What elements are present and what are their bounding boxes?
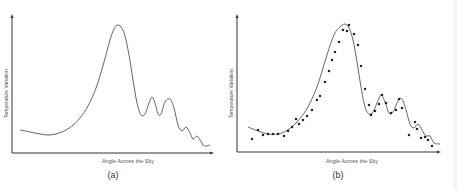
- data-point: [385, 102, 387, 104]
- x-axis-arrow-icon: [437, 151, 441, 154]
- data-point: [267, 133, 269, 135]
- x-axis-arrow-icon: [210, 152, 214, 155]
- model-curve: [20, 25, 210, 146]
- data-point: [324, 81, 326, 83]
- y-axis-arrow-icon: [236, 14, 239, 18]
- data-point: [360, 65, 362, 67]
- panel-caption: (a): [98, 170, 128, 180]
- data-point: [331, 59, 333, 61]
- data-point: [348, 24, 350, 26]
- data-point: [370, 114, 372, 116]
- data-point: [427, 139, 429, 141]
- data-point: [334, 51, 336, 53]
- data-point: [353, 33, 355, 35]
- y-axis-arrow-icon: [11, 14, 14, 18]
- data-point: [251, 138, 253, 140]
- chart-panel-b: Temperature Variation Angle Across the S…: [228, 0, 457, 189]
- x-axis-label: Angle Across the Sky: [78, 158, 178, 164]
- data-point: [381, 94, 383, 96]
- data-point: [401, 107, 403, 109]
- data-point: [374, 110, 376, 112]
- data-point: [420, 137, 422, 139]
- data-point: [390, 112, 392, 114]
- y-axis-label: Temperature Variation: [228, 69, 234, 118]
- data-point: [316, 99, 318, 101]
- data-point: [319, 95, 321, 97]
- data-point: [398, 98, 400, 100]
- chart-panel-a: Temperature Variation Angle Across the S…: [0, 0, 228, 189]
- data-point: [283, 135, 285, 137]
- data-point: [298, 123, 300, 125]
- data-point: [414, 121, 416, 123]
- data-point: [395, 109, 397, 111]
- data-point: [328, 70, 330, 72]
- data-point: [262, 134, 264, 136]
- data-point: [416, 128, 418, 130]
- data-point: [277, 133, 279, 135]
- model-curve: [248, 24, 440, 144]
- data-point: [342, 29, 344, 31]
- data-point: [346, 30, 348, 32]
- data-point: [364, 88, 366, 90]
- data-point: [287, 130, 289, 132]
- data-point: [338, 41, 340, 43]
- data-point: [408, 134, 410, 136]
- panel-caption: (b): [323, 170, 353, 180]
- data-point: [431, 145, 433, 147]
- data-point: [257, 129, 259, 131]
- data-point: [357, 44, 359, 46]
- data-point: [302, 119, 304, 121]
- data-point: [378, 103, 380, 105]
- observed-data-points: [251, 24, 433, 147]
- data-point: [272, 133, 274, 135]
- x-axis-label: Angle Across the Sky: [302, 158, 402, 164]
- data-point: [311, 109, 313, 111]
- data-point: [306, 115, 308, 117]
- data-point: [295, 118, 297, 120]
- data-point: [291, 126, 293, 128]
- data-point: [424, 136, 426, 138]
- data-point: [368, 104, 370, 106]
- y-axis-label: Temperature Variation: [3, 69, 9, 118]
